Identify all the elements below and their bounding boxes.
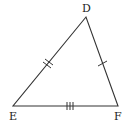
triangle-def xyxy=(13,17,118,106)
vertex-label-f: F xyxy=(114,110,122,123)
vertex-label-e: E xyxy=(9,110,17,123)
triangle-diagram: D E F xyxy=(0,0,130,124)
vertex-label-d: D xyxy=(82,2,91,15)
